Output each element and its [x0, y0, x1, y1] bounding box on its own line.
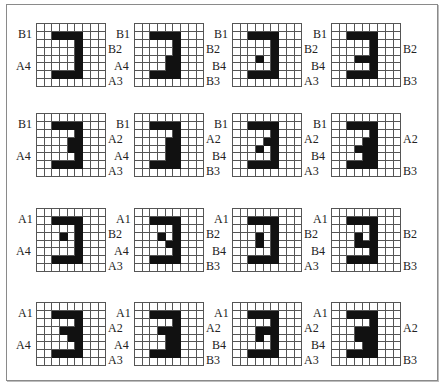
grid-cell: [83, 114, 91, 122]
grid-cell: [378, 161, 386, 169]
grid-cell: [287, 217, 295, 225]
label-right-bottom: A3: [108, 165, 123, 177]
grid-cell: [189, 32, 197, 40]
grid-cell: [158, 319, 166, 327]
grid-cell: [363, 24, 371, 32]
grid-cell: [181, 335, 189, 343]
grid-cell: [143, 248, 151, 256]
grid-cell: [370, 114, 378, 122]
grid-cell: [347, 342, 355, 350]
grid-cell: [394, 130, 402, 138]
grid-cell: [135, 138, 143, 146]
grid-cell: [91, 256, 99, 264]
grid-cell: [173, 48, 181, 56]
grid-cell: [370, 153, 378, 161]
grid-cell: [378, 303, 386, 311]
pixel-grid-r4c1: [36, 302, 106, 366]
grid-cell: [143, 264, 151, 272]
grid-cell: [233, 146, 241, 154]
grid-cell: [363, 209, 371, 217]
grid-cell: [60, 153, 68, 161]
grid-cell: [378, 48, 386, 56]
grid-cell: [135, 319, 143, 327]
grid-cell: [52, 79, 60, 87]
grid-cell: [355, 335, 363, 343]
grid-cell: [271, 209, 279, 217]
grid-cell: [150, 327, 158, 335]
grid-cell: [173, 264, 181, 272]
grid-cell: [233, 63, 241, 71]
grid-cell: [256, 63, 264, 71]
grid-cell: [248, 79, 256, 87]
grid-cell: [37, 71, 45, 79]
grid-cell: [181, 358, 189, 366]
grid-cell: [83, 79, 91, 87]
grid-cell: [173, 122, 181, 130]
grid-cell: [233, 169, 241, 177]
grid-cell: [347, 358, 355, 366]
grid-cell: [158, 209, 166, 217]
grid-cell: [271, 48, 279, 56]
grid-cell: [347, 71, 355, 79]
grid-cell: [295, 130, 303, 138]
label-right-bottom: B3: [206, 75, 220, 87]
grid-cell: [197, 153, 205, 161]
grid-cell: [197, 114, 205, 122]
grid-cell: [173, 56, 181, 64]
grid-cell: [295, 264, 303, 272]
grid-cell: [295, 63, 303, 71]
grid-cell: [91, 327, 99, 335]
grid-cell: [158, 248, 166, 256]
grid-cell: [332, 342, 340, 350]
grid-cell: [135, 303, 143, 311]
grid-cell: [181, 63, 189, 71]
grid-cell: [233, 342, 241, 350]
grid-cell: [378, 233, 386, 241]
grid-cell: [271, 311, 279, 319]
grid-cell: [189, 130, 197, 138]
grid-cell: [256, 217, 264, 225]
grid-cell: [150, 114, 158, 122]
grid-cell: [241, 303, 249, 311]
grid-cell: [75, 209, 83, 217]
grid-cell: [45, 79, 53, 87]
grid-cell: [256, 248, 264, 256]
grid-cell: [378, 79, 386, 87]
grid-cell: [295, 169, 303, 177]
grid-cell: [75, 114, 83, 122]
grid-cell: [386, 350, 394, 358]
grid-cell: [197, 264, 205, 272]
grid-cell: [166, 63, 174, 71]
grid-cell: [189, 146, 197, 154]
grid-cell: [355, 342, 363, 350]
grid-cell: [189, 233, 197, 241]
grid-cell: [45, 248, 53, 256]
grid-cell: [378, 209, 386, 217]
grid-cell: [83, 241, 91, 249]
grid-cell: [173, 350, 181, 358]
grid-cell: [150, 217, 158, 225]
grid-cell: [378, 130, 386, 138]
grid-cell: [75, 40, 83, 48]
grid-cell: [37, 48, 45, 56]
grid-cell: [241, 233, 249, 241]
grid-cell: [60, 264, 68, 272]
grid-cell: [68, 342, 76, 350]
grid-cell: [347, 40, 355, 48]
grid-cell: [256, 311, 264, 319]
grid-cell: [386, 264, 394, 272]
grid-cell: [271, 32, 279, 40]
grid-cell: [91, 264, 99, 272]
label-mid-left: B4: [212, 339, 226, 351]
pixel-grid-r2c3: [232, 113, 302, 177]
grid-cell: [91, 209, 99, 217]
grid-cell: [271, 161, 279, 169]
grid-cell: [256, 161, 264, 169]
grid-cell: [248, 114, 256, 122]
grid-cell: [45, 342, 53, 350]
grid-cell: [370, 56, 378, 64]
grid-cell: [256, 327, 264, 335]
grid-cell: [264, 32, 272, 40]
grid-cell: [158, 71, 166, 79]
grid-cell: [189, 138, 197, 146]
